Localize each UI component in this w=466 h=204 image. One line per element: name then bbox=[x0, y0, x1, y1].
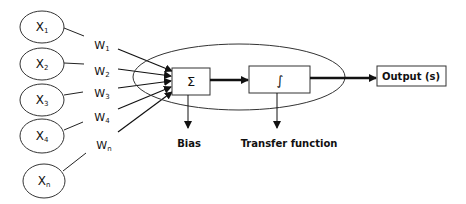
edge-x1-w1 bbox=[64, 28, 84, 36]
weight-label-w2: W2 bbox=[94, 65, 109, 79]
arrow-w3-sum bbox=[118, 81, 171, 88]
input-label-x1: X1 bbox=[36, 20, 49, 35]
input-label-x2: X2 bbox=[36, 57, 49, 72]
edge-x2-w2 bbox=[64, 63, 84, 64]
summation-symbol: Σ bbox=[187, 74, 195, 89]
bias-label: Bias bbox=[177, 138, 201, 149]
edge-xn-wn bbox=[63, 153, 86, 171]
arrow-w1-sum bbox=[118, 49, 172, 71]
edge-x3-w3 bbox=[64, 92, 83, 95]
arrow-w2-sum bbox=[118, 69, 171, 76]
weight-label-w1: W1 bbox=[94, 39, 109, 53]
neuron-diagram bbox=[0, 0, 466, 204]
weight-label-w3: W3 bbox=[94, 87, 109, 101]
transfer-symbol: ∫ bbox=[277, 73, 284, 88]
input-label-x3: X3 bbox=[36, 93, 49, 108]
output-label: Output (s) bbox=[382, 71, 440, 82]
transfer-function-label: Transfer function bbox=[241, 138, 338, 149]
input-label-x4: X4 bbox=[36, 129, 49, 144]
weight-label-wn: Wn bbox=[96, 139, 111, 153]
weight-label-w4: W4 bbox=[94, 111, 109, 125]
input-label-xn: Xn bbox=[38, 174, 51, 189]
edge-x4-w4 bbox=[64, 122, 83, 130]
